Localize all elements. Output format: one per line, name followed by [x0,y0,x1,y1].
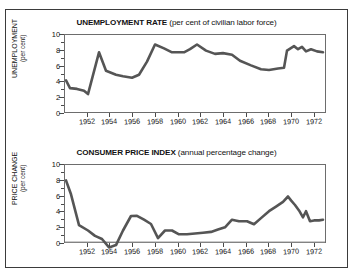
x-tick-label: 1972 [305,246,322,256]
x-tick-label: 1958 [147,246,164,256]
x-tick-labels-cpi: 1952 1954 1956 1958 1960 1962 1964 1966 … [6,247,347,263]
x-tick-label: 1972 [305,116,322,126]
plot-area-cpi [64,164,326,243]
x-tick-label: 1970 [283,246,300,256]
x-tick-label: 1962 [192,246,209,256]
x-tick-label: 1964 [215,116,232,126]
x-tick-label: 1954 [101,246,118,256]
x-tick-label: 1958 [147,116,164,126]
y-tick-labels-cpi: 10 8 6 4 2 0 [36,164,60,243]
chart-title-sub: (per cent of civilian labor force) [169,18,276,27]
unemployment-series [66,45,323,95]
chart-title-cpi: CONSUMER PRICE INDEX (annual percentage … [6,148,347,157]
x-tick-label: 1966 [237,116,254,126]
chart-panel-cpi: CONSUMER PRICE INDEX (annual percentage … [6,140,347,269]
chart-title-main: CONSUMER PRICE INDEX [77,148,176,157]
x-tick-label: 1960 [169,116,186,126]
x-tick-label: 1954 [101,116,118,126]
y-axis-label-line2: (per cent) [19,35,26,62]
x-tick-label: 1960 [169,246,186,256]
chart-title-sub: (annual percentage change) [178,148,277,157]
unemployment-line-svg [65,35,325,112]
x-tick-label: 1968 [260,246,277,256]
x-tick-label: 1956 [124,116,141,126]
chart-panel-unemployment: UNEMPLOYMENT RATE (per cent of civilian … [6,10,347,140]
x-tick-label: 1962 [192,116,209,126]
chart-title-main: UNEMPLOYMENT RATE [76,18,167,27]
figure-frame: UNEMPLOYMENT RATE (per cent of civilian … [5,9,348,268]
x-tick-label: 1952 [78,116,95,126]
y-axis-label-line1: PRICE CHANGE [11,152,18,205]
plot-area-unemployment [64,34,326,113]
y-axis-label-line1: UNEMPLOYMENT [11,19,18,78]
x-tick-labels-unemployment: 1952 1954 1956 1958 1960 1962 1964 1966 … [6,117,347,133]
y-axis-label-line2: (per cent) [19,165,26,192]
chart-title-unemployment: UNEMPLOYMENT RATE (per cent of civilian … [6,18,347,27]
y-axis-label-unemployment: UNEMPLOYMENT (per cent) [11,9,28,87]
x-tick-label: 1968 [260,116,277,126]
x-tick-label: 1952 [78,246,95,256]
cpi-series [66,180,323,247]
x-tick-label: 1970 [283,116,300,126]
x-tick-label: 1966 [237,246,254,256]
cpi-line-svg [65,165,325,253]
y-tick-labels-unemployment: 10 8 6 4 2 0 [36,34,60,113]
x-tick-label: 1964 [215,246,232,256]
y-axis-label-cpi: PRICE CHANGE (per cent) [11,139,28,217]
x-tick-label: 1956 [124,246,141,256]
